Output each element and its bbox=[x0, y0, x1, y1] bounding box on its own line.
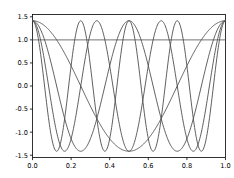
chart-figure: 0.00.20.40.60.81.0 1.51.00.50.0-0.5-1.0-… bbox=[0, 0, 234, 178]
y-tick-label: 0.5 bbox=[18, 59, 29, 67]
y-tick-label: -1.5 bbox=[15, 152, 28, 160]
x-tick-label: 0.0 bbox=[27, 162, 38, 170]
y-tick-label: -0.5 bbox=[15, 105, 28, 113]
y-tick-label: 1.5 bbox=[18, 13, 29, 21]
plot-svg: 0.00.20.40.60.81.0 1.51.00.50.0-0.5-1.0-… bbox=[0, 0, 234, 178]
y-tick-label: -1.0 bbox=[15, 129, 28, 137]
x-tick-label: 0.2 bbox=[66, 162, 77, 170]
x-tick-label: 0.4 bbox=[104, 162, 115, 170]
y-tick-label: 1.0 bbox=[18, 36, 29, 44]
x-tick-label: 1.0 bbox=[220, 162, 231, 170]
x-tick-label: 0.8 bbox=[182, 162, 193, 170]
y-tick-label: 0.0 bbox=[18, 82, 29, 90]
x-tick-label: 0.6 bbox=[143, 162, 154, 170]
